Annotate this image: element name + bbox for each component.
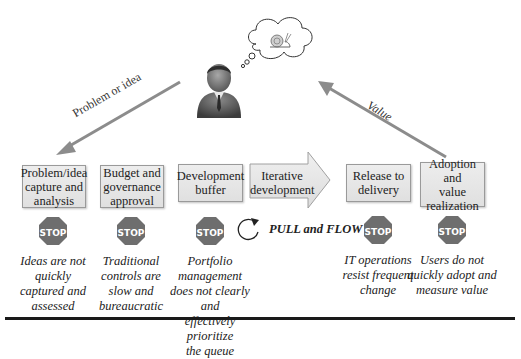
snail-thought-bubble-icon xyxy=(240,14,320,74)
stage-problem-capture: Problem/ideacapture andanalysis xyxy=(22,165,86,208)
stage-development-buffer: Developmentbuffer xyxy=(178,164,243,202)
business-person-icon xyxy=(194,58,244,120)
iterative-development-label: Iterativedevelopment xyxy=(250,169,314,197)
stage-release-delivery: Release todelivery xyxy=(346,164,411,202)
stop-sign-icon: STOP xyxy=(437,215,467,245)
svg-text:STOP: STOP xyxy=(439,227,466,237)
note-adoption-value: Users do notquickly adopt andmeasure val… xyxy=(405,253,499,298)
svg-text:STOP: STOP xyxy=(40,228,67,238)
stop-sign-icon: STOP xyxy=(195,216,225,246)
cycle-arrow-icon xyxy=(236,216,262,244)
pull-and-flow-label: PULL and FLOW xyxy=(269,222,362,237)
stop-sign-icon: STOP xyxy=(116,216,146,246)
stage-adoption-value: Adoption andvaluerealization xyxy=(420,162,485,207)
bottom-rule xyxy=(5,317,515,320)
stop-sign-icon: STOP xyxy=(363,215,393,245)
stop-sign-icon: STOP xyxy=(38,216,68,246)
note-problem-capture: Ideas are notquicklycaptured andassessed xyxy=(10,254,96,314)
svg-text:STOP: STOP xyxy=(365,227,392,237)
note-development-buffer: Portfolio managementdoes not clearly and… xyxy=(160,254,260,359)
svg-text:STOP: STOP xyxy=(118,228,145,238)
svg-text:STOP: STOP xyxy=(197,228,224,238)
stage-budget-approval: Budget andgovernanceapproval xyxy=(100,165,164,208)
